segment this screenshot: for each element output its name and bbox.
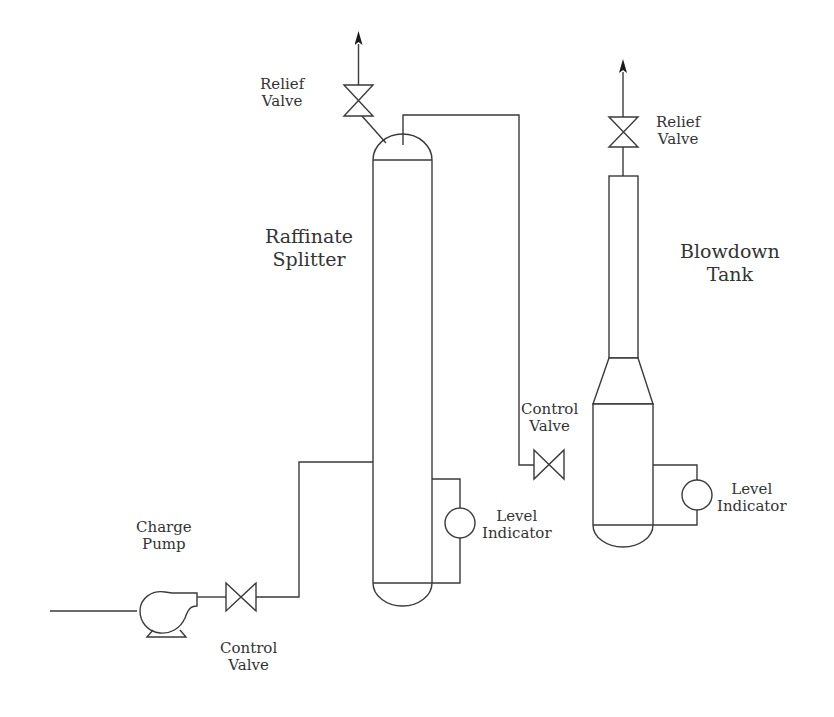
- label-line: Valve: [220, 657, 277, 674]
- label-line: Splitter: [265, 248, 353, 271]
- blowdown-tank-label: Blowdown Tank: [680, 240, 780, 286]
- label-line: Valve: [521, 418, 578, 435]
- splitter-level-indicator-icon: [445, 508, 475, 538]
- feed-control-valve-icon: [226, 583, 256, 611]
- label-line: Level: [482, 508, 552, 525]
- label-line: Relief: [656, 114, 700, 131]
- label-line: Raffinate: [265, 225, 353, 248]
- raffinate-splitter-vessel: [373, 134, 432, 606]
- overhead-control-valve-icon: [534, 450, 564, 479]
- label-line: Valve: [260, 93, 304, 110]
- label-line: Blowdown: [680, 240, 780, 263]
- label-line: Level: [717, 481, 787, 498]
- splitter-relief-pipe: [362, 116, 386, 143]
- label-line: Charge: [136, 519, 192, 536]
- process-flow-diagram: [0, 0, 834, 717]
- blowdown-tank-vessel: [593, 176, 653, 547]
- label-line: Indicator: [482, 525, 552, 542]
- splitter-relief-valve-label: Relief Valve: [260, 76, 304, 110]
- feed-inlet-pipe: [256, 462, 373, 597]
- label-line: Valve: [656, 131, 700, 148]
- tank-relief-valve-icon: [609, 117, 638, 147]
- overhead-control-valve-label: Control Valve: [521, 401, 578, 435]
- label-line: Indicator: [717, 498, 787, 515]
- charge-pump-label: Charge Pump: [136, 519, 192, 553]
- feed-control-valve-label: Control Valve: [220, 640, 277, 674]
- tank-level-indicator-label: Level Indicator: [717, 481, 787, 515]
- splitter-level-indicator-label: Level Indicator: [482, 508, 552, 542]
- label-line: Pump: [136, 536, 192, 553]
- charge-pump-icon: [140, 592, 197, 637]
- tank-relief-valve-label: Relief Valve: [656, 114, 700, 148]
- label-line: Tank: [680, 263, 780, 286]
- label-line: Control: [220, 640, 277, 657]
- label-line: Relief: [260, 76, 304, 93]
- label-line: Control: [521, 401, 578, 418]
- raffinate-splitter-label: Raffinate Splitter: [265, 225, 353, 271]
- splitter-relief-valve-icon: [344, 85, 373, 116]
- tank-level-indicator-icon: [682, 480, 712, 510]
